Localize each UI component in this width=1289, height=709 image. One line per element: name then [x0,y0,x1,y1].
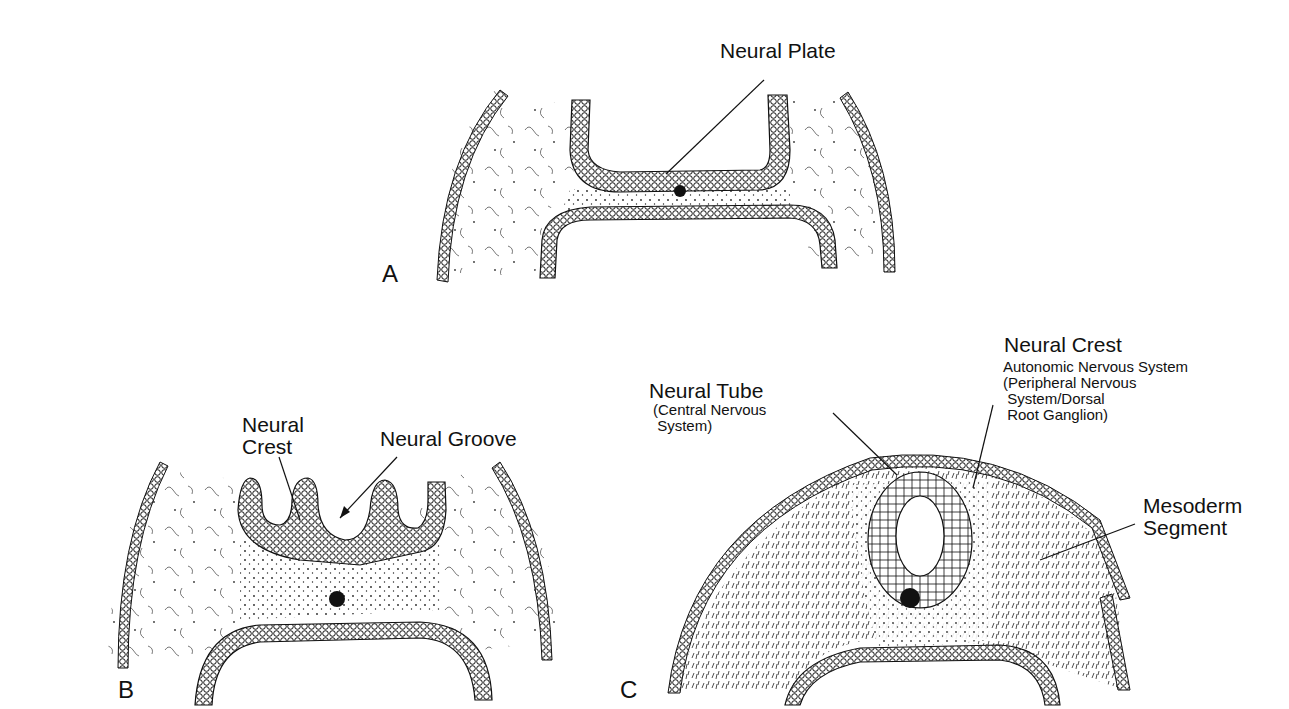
panel-c-diagram [668,405,1135,705]
label-neural-groove: Neural Groove [380,428,517,450]
label-neural-tube-sub: (Central Nervous System) [653,402,766,434]
label-neural-crest-b-line1: Neural [242,414,304,436]
panel-label-a: A [382,260,398,288]
label-neural-crest-b-line2: Crest [242,436,292,458]
label-mesoderm-line1: Mesoderm [1143,495,1242,517]
label-neural-plate: Neural Plate [720,40,836,62]
panel-label-c: C [620,676,637,704]
panel-a-diagram [437,29,915,282]
label-neural-crest-c: Neural Crest [1004,334,1122,356]
panel-label-b: B [118,676,134,704]
panel-b-diagram [108,457,560,705]
label-neural-tube: Neural Tube [649,380,763,402]
label-neural-crest-c-sub: Autonomic Nervous System (Peripheral Ner… [1003,359,1188,423]
label-mesoderm-line2: Segment [1143,517,1227,539]
